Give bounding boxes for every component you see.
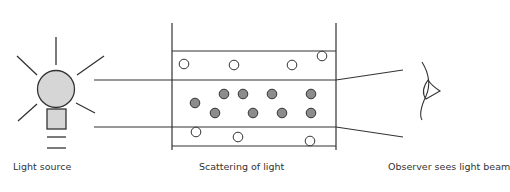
scattering-label: Scattering of light bbox=[199, 161, 284, 172]
open-particle bbox=[191, 127, 201, 137]
open-particle bbox=[179, 59, 189, 69]
open-particle bbox=[287, 60, 297, 70]
filled-particle bbox=[210, 108, 220, 118]
open-particle bbox=[233, 132, 243, 142]
open-particle bbox=[317, 51, 327, 61]
filled-particle bbox=[306, 89, 316, 99]
light-beam bbox=[94, 70, 403, 137]
eye-icon bbox=[421, 62, 440, 120]
observer-label: Observer sees light beam bbox=[388, 161, 510, 172]
filled-particle bbox=[248, 108, 258, 118]
filled-particle bbox=[277, 108, 287, 118]
filled-particle bbox=[306, 108, 316, 118]
filled-particle bbox=[190, 98, 200, 108]
particles bbox=[179, 51, 327, 146]
open-particle bbox=[305, 136, 315, 146]
filled-particle bbox=[219, 89, 229, 99]
open-particle bbox=[229, 60, 239, 70]
filled-particle bbox=[267, 89, 277, 99]
light-source-icon bbox=[17, 37, 104, 148]
filled-particle bbox=[238, 89, 248, 99]
light-source-label: Light source bbox=[13, 161, 71, 172]
